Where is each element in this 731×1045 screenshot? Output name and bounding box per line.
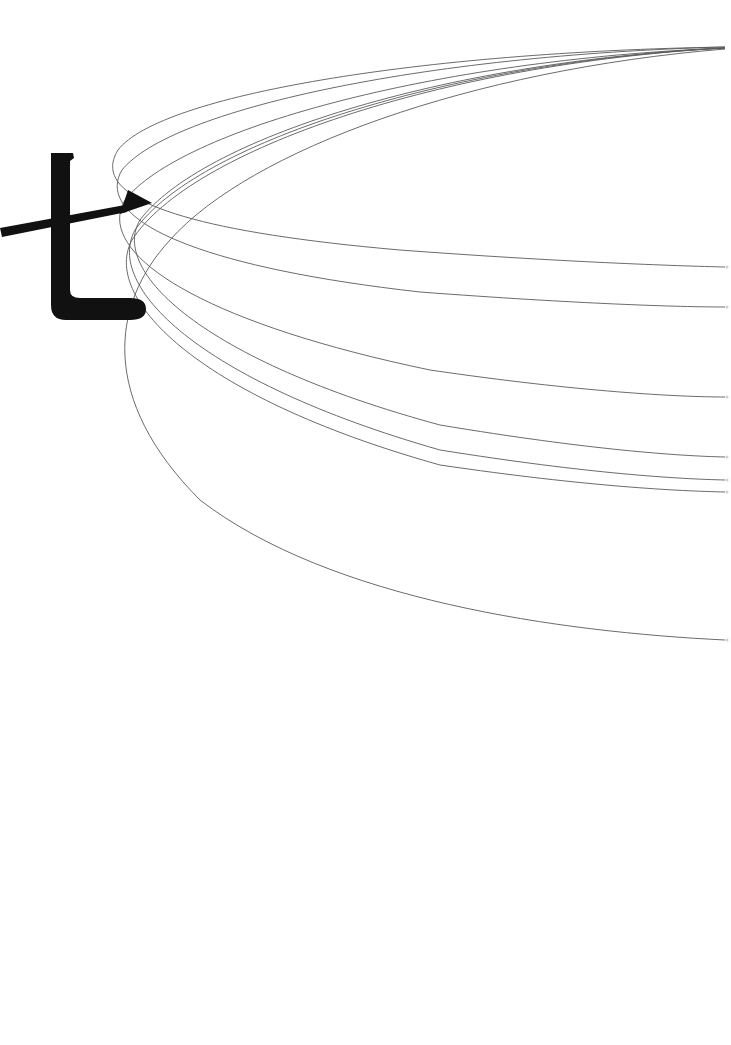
arc-endpoint (726, 491, 729, 494)
arc-endpoint (726, 306, 729, 309)
arc-line (125, 49, 725, 640)
arc-line (126, 48, 725, 492)
converging-arcs (113, 47, 729, 642)
seven-glyph (0, 153, 152, 320)
arc-endpoint (726, 396, 729, 399)
arc-line (117, 47, 725, 307)
artwork-canvas (0, 0, 731, 1045)
arc-endpoint (726, 266, 729, 269)
arc-endpoint (726, 456, 729, 459)
arc-line (113, 47, 725, 267)
arc-line (120, 48, 725, 397)
arc-endpoint (726, 479, 729, 482)
arrow-head-icon (120, 190, 152, 214)
arc-endpoint (726, 639, 729, 642)
